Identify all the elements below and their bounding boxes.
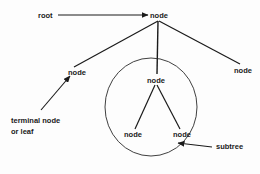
node-right: node <box>234 66 252 75</box>
node-left: node <box>68 68 86 77</box>
edge-root-to-right-node <box>159 21 240 64</box>
edge-root-to-center-node <box>157 21 158 74</box>
node-center: node <box>147 76 165 85</box>
label-subtree: subtree <box>216 142 243 151</box>
label-terminal-node-line1: terminal node <box>11 116 60 125</box>
subtree-circle <box>105 58 197 156</box>
node-leaf-left: node <box>124 130 142 139</box>
node-leaf-right: node <box>173 130 191 139</box>
node-top: node <box>150 11 168 20</box>
terminal-node-pointer-arrow <box>41 76 70 110</box>
subtree-pointer-arrow <box>178 143 212 147</box>
tree-diagram-canvas: root node node node node node node termi… <box>0 0 260 174</box>
edge-center-to-leaf-right <box>157 85 180 129</box>
edge-center-to-leaf-left <box>135 85 155 129</box>
edge-root-to-left-node <box>74 21 158 67</box>
label-terminal-node-line2: or leaf <box>11 127 34 136</box>
label-root: root <box>38 11 53 20</box>
